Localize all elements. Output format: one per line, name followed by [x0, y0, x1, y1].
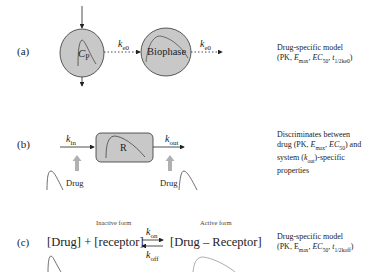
drug-curve-c-icon — [48, 256, 61, 272]
panel-b-description: Discriminates between drug (PK, Emax, EC… — [277, 130, 361, 175]
panel-c-description: Drug-specific model (PK, Emax, EC50, t1/… — [277, 232, 354, 255]
complex-curve-icon — [193, 257, 235, 272]
drug-curve-left-icon — [47, 171, 63, 190]
panel-a-graphics — [60, 6, 222, 86]
cp-label: CP — [78, 48, 90, 63]
response-label: R — [120, 142, 127, 153]
koff-label: koff — [146, 249, 159, 265]
panel-b-tag: (b) — [17, 138, 30, 150]
drug-label-left: Drug — [66, 178, 83, 189]
drug-stim-arrow-left-icon — [73, 155, 82, 171]
kon-label: kon — [146, 226, 157, 242]
drug-stim-arrow-right-icon — [166, 155, 175, 171]
drug-receptor-reactants: [Drug] + [receptor] — [47, 235, 144, 250]
active-form-label: Active form — [200, 219, 232, 226]
panel-a-tag: (a) — [17, 45, 29, 57]
ke0-label-1: ke0 — [118, 38, 129, 54]
ke0-label-2: ke0 — [200, 38, 211, 54]
kin-label: kin — [66, 133, 76, 149]
biophase-label: Biophase — [147, 46, 186, 57]
drug-label-right: Drug — [160, 178, 177, 189]
panel-c-tag: (c) — [17, 236, 29, 248]
kout-label: kout — [165, 133, 178, 149]
panel-a-description: Drug-specific model (PK, Emax, EC50, t1/… — [277, 43, 352, 66]
drug-receptor-complex: [Drug – Receptor] — [170, 235, 262, 250]
drug-curve-right-icon — [179, 171, 197, 190]
inactive-form-label: Inactive form — [96, 219, 131, 226]
